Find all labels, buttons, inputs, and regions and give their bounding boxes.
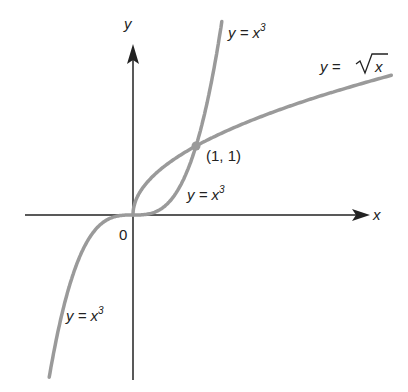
cubic-label-bottom-sup: 3 <box>98 305 104 316</box>
sqrt-label-radicand: x <box>374 58 383 75</box>
cubic-label-mid-sup: 3 <box>219 184 225 195</box>
y-axis-label: y <box>123 15 133 32</box>
cubic-label-top: y = x3 <box>227 22 266 41</box>
cubic-label-bottom-base: y = x <box>65 307 99 324</box>
cubic-label-bottom: y = x3 <box>65 305 104 324</box>
sqrt-label: y = x <box>319 54 388 75</box>
radical-sign-icon <box>356 54 388 73</box>
cubic-label-top-sup: 3 <box>260 22 266 33</box>
diagram-canvas: y x 0 (1, 1) y = x3 y = x3 y = x3 y = x <box>0 0 408 392</box>
cubic-label-mid-base: y = x <box>186 186 220 203</box>
cubic-label-top-base: y = x <box>227 24 261 41</box>
sqrt-label-prefix: y = <box>319 58 341 75</box>
intersection-point <box>192 142 201 151</box>
sqrt-curve <box>133 75 391 215</box>
cubic-label-mid: y = x3 <box>186 184 225 203</box>
point-label: (1, 1) <box>206 147 241 164</box>
x-axis-label: x <box>372 206 381 223</box>
origin-label: 0 <box>119 226 127 243</box>
